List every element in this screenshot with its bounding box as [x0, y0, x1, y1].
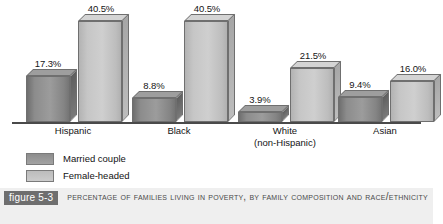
- bar-white-female-headed[interactable]: [290, 68, 334, 122]
- category-label-line1: Black: [167, 125, 190, 136]
- chart-legend: Married couple Female-headed: [26, 151, 130, 185]
- figure-caption-bar: figure 5-3 Percentage of Families Living…: [0, 188, 433, 224]
- bar-front-face: [238, 112, 282, 122]
- bar-front-face: [78, 21, 122, 122]
- bar-group-asian: 9.4% 16.0%: [334, 2, 434, 122]
- bar-side-face: [434, 74, 441, 122]
- bar-hispanic-married-couple[interactable]: [26, 76, 70, 122]
- bar-side-face: [382, 90, 389, 122]
- legend-label-married-couple: Married couple: [63, 153, 126, 164]
- bar-asian-married-couple[interactable]: [338, 97, 382, 122]
- category-label-line1: Asian: [373, 125, 397, 136]
- bar-asian-female-headed[interactable]: [390, 81, 434, 122]
- legend-swatch-icon-female-headed: [26, 170, 54, 182]
- x-axis-category-labels: Hispanic Black White (non-Hispanic) Asia…: [0, 125, 433, 153]
- category-label-black: Black: [124, 125, 234, 137]
- bar-front-face: [338, 97, 382, 122]
- figure-caption-text: Percentage of Families Living in Poverty…: [67, 191, 428, 204]
- x-axis-line: [12, 122, 421, 124]
- category-label-line2: (non-Hispanic): [230, 137, 340, 149]
- bar-front-face: [132, 98, 176, 122]
- category-label-white-non-hispanic: White (non-Hispanic): [230, 125, 340, 148]
- chart-plot-area: 17.3% 40.5% 8.8% 40.5%: [0, 0, 433, 124]
- bar-side-face: [176, 91, 183, 122]
- category-label-hispanic: Hispanic: [18, 125, 128, 137]
- figure-number-badge: figure 5-3: [4, 191, 58, 205]
- bar-value-label: 3.9%: [230, 94, 290, 105]
- bar-front-face: [390, 81, 434, 122]
- legend-item-female-headed: Female-headed: [26, 168, 130, 183]
- bar-hispanic-female-headed[interactable]: [78, 21, 122, 122]
- bar-value-label: 40.5%: [177, 3, 237, 14]
- bar-white-married-couple[interactable]: [238, 112, 282, 122]
- bar-value-label: 40.5%: [71, 3, 131, 14]
- bar-value-label: 9.4%: [330, 79, 390, 90]
- bar-group-black: 8.8% 40.5%: [128, 2, 228, 122]
- bar-front-face: [184, 21, 228, 122]
- legend-swatch-icon-married-couple: [26, 153, 54, 165]
- bar-group-white-non-hispanic: 3.9% 21.5%: [234, 2, 334, 122]
- bar-black-married-couple[interactable]: [132, 98, 176, 122]
- category-label-asian: Asian: [330, 125, 440, 137]
- bar-value-label: 8.8%: [124, 80, 184, 91]
- bar-group-hispanic: 17.3% 40.5%: [22, 2, 122, 122]
- bar-value-label: 16.0%: [383, 63, 443, 74]
- bar-front-face: [290, 68, 334, 122]
- category-label-line1: White: [273, 125, 297, 136]
- bar-front-face: [26, 76, 70, 122]
- category-label-line1: Hispanic: [55, 125, 91, 136]
- bar-side-face: [70, 69, 77, 122]
- bar-black-female-headed[interactable]: [184, 21, 228, 122]
- legend-label-female-headed: Female-headed: [63, 170, 130, 181]
- bar-value-label: 17.3%: [18, 58, 78, 69]
- legend-item-married-couple: Married couple: [26, 151, 130, 166]
